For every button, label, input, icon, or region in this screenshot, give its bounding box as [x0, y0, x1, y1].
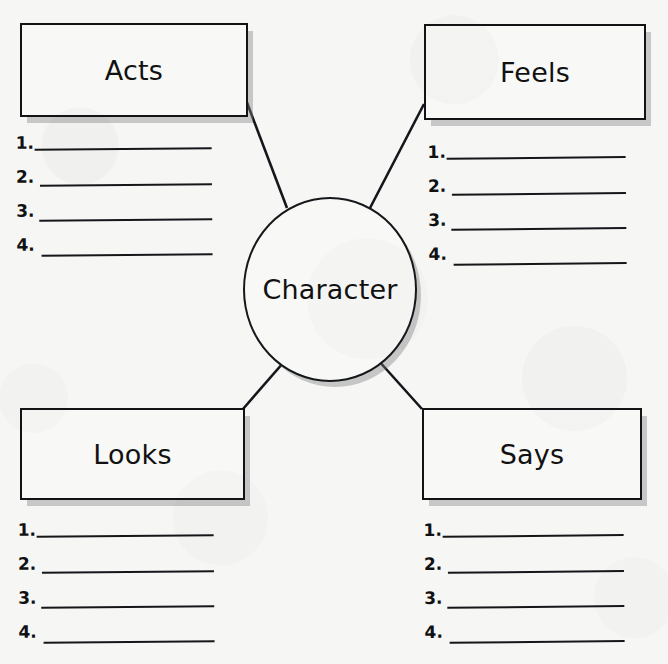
answer-line-number: 4.	[16, 237, 35, 258]
answer-line-number: 4.	[428, 246, 447, 267]
answer-line-row[interactable]: 3.	[428, 197, 626, 233]
node-box-acts-label: Acts	[105, 55, 163, 86]
answer-line-number: 3.	[18, 590, 37, 611]
answer-line-number: 3.	[16, 203, 35, 224]
answer-lines-says: 1. 2. 3. 4.	[423, 507, 624, 645]
answer-line-row[interactable]: 3.	[16, 188, 212, 224]
answer-line-number: 2.	[424, 556, 443, 577]
answer-line-number: 1.	[423, 522, 442, 543]
answer-lines-looks: 1. 2. 3. 4.	[17, 507, 214, 645]
answer-line-rule[interactable]	[447, 605, 624, 609]
node-box-looks-label: Looks	[93, 439, 171, 470]
answer-line-rule[interactable]	[447, 156, 626, 160]
answer-line-rule[interactable]	[41, 605, 214, 609]
connector-feels	[370, 104, 424, 208]
answer-line-row[interactable]: 2.	[18, 541, 214, 577]
answer-line-rule[interactable]	[448, 570, 624, 574]
answer-line-number: 2.	[428, 178, 447, 199]
center-circle-character[interactable]: Character	[243, 197, 417, 382]
node-box-looks[interactable]: Looks	[20, 408, 245, 500]
answer-line-number: 4.	[424, 624, 443, 645]
node-box-says[interactable]: Says	[422, 408, 642, 500]
answer-line-row[interactable]: 1.	[423, 507, 623, 543]
answer-line-number: 3.	[424, 590, 443, 611]
answer-line-row[interactable]: 2.	[424, 541, 624, 577]
answer-line-number: 1.	[16, 135, 35, 156]
answer-line-rule[interactable]	[35, 147, 212, 151]
answer-line-number: 2.	[16, 169, 35, 190]
answer-lines-acts: 1. 2. 3. 4.	[15, 120, 212, 258]
center-circle-label: Character	[262, 274, 397, 305]
answer-line-row[interactable]: 4.	[424, 609, 624, 645]
connector-says	[378, 360, 422, 409]
answer-line-rule[interactable]	[40, 183, 212, 187]
node-box-acts[interactable]: Acts	[20, 23, 248, 117]
answer-line-number: 3.	[428, 212, 447, 233]
answer-line-row[interactable]: 3.	[424, 575, 624, 611]
answer-line-rule[interactable]	[450, 640, 625, 644]
answer-line-rule[interactable]	[443, 534, 624, 538]
answer-line-row[interactable]: 2.	[16, 154, 212, 190]
answer-line-row[interactable]: 4.	[428, 231, 626, 267]
connector-acts	[246, 100, 287, 208]
answer-line-number: 1.	[18, 522, 37, 543]
answer-line-row[interactable]: 1.	[17, 507, 213, 543]
node-box-says-label: Says	[500, 439, 565, 470]
answer-line-rule[interactable]	[454, 262, 627, 266]
answer-line-row[interactable]: 1.	[15, 120, 211, 156]
answer-line-row[interactable]: 4.	[16, 222, 212, 258]
answer-line-number: 4.	[18, 624, 37, 645]
answer-line-rule[interactable]	[452, 192, 626, 196]
answer-line-row[interactable]: 4.	[18, 609, 214, 645]
answer-line-row[interactable]: 3.	[18, 575, 214, 611]
answer-line-number: 2.	[18, 556, 37, 577]
answer-line-rule[interactable]	[39, 218, 212, 222]
node-box-feels[interactable]: Feels	[424, 24, 646, 120]
node-box-feels-label: Feels	[500, 57, 570, 88]
answer-line-rule[interactable]	[44, 640, 215, 643]
answer-line-row[interactable]: 2.	[428, 163, 626, 199]
answer-line-rule[interactable]	[451, 227, 626, 231]
answer-line-number: 1.	[427, 144, 446, 165]
answer-line-rule[interactable]	[37, 534, 214, 538]
connector-looks	[243, 363, 283, 409]
answer-line-rule[interactable]	[42, 570, 214, 574]
answer-line-rule[interactable]	[42, 253, 213, 256]
answer-line-row[interactable]: 1.	[427, 129, 625, 165]
answer-lines-feels: 1. 2. 3. 4.	[427, 129, 626, 267]
